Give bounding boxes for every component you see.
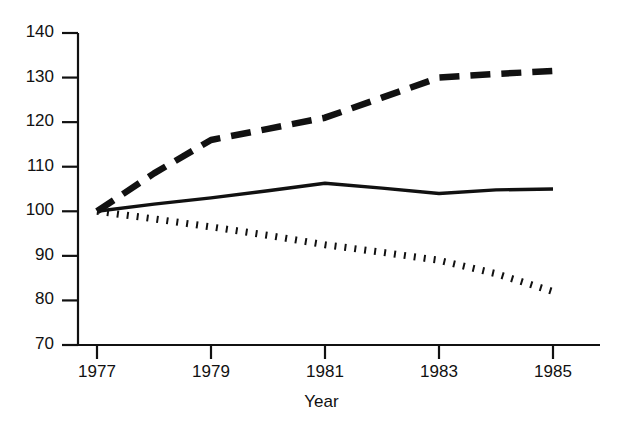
series-line-solid-series	[97, 183, 553, 211]
line-chart: 708090100110120130140 197719791981198319…	[0, 0, 643, 437]
chart-series	[97, 71, 553, 292]
series-line-dotted-series	[97, 211, 553, 291]
chart-plot-area	[0, 0, 643, 437]
x-axis-title: Year	[0, 392, 643, 412]
chart-axes	[62, 33, 600, 359]
